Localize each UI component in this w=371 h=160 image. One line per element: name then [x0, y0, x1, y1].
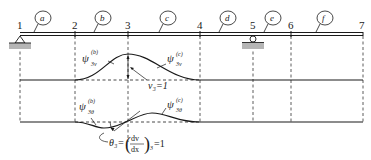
node-label-3: 3 — [125, 19, 131, 31]
svg-text:3v: 3v — [90, 61, 97, 67]
svg-text:3θ: 3θ — [175, 107, 182, 113]
node-guides — [20, 36, 363, 142]
roller-support-icon — [242, 36, 264, 49]
theta3-annotation: θ₃= ( dv dx ) 3 =1 — [109, 134, 165, 155]
svg-text:e: e — [270, 13, 274, 23]
psi-3theta-c-label: ψ (c) 3θ — [167, 97, 183, 113]
node-label-4: 4 — [197, 19, 203, 31]
psi-3v-b-label: ψ (b) 3v — [82, 49, 98, 67]
element-label-f: f — [316, 11, 333, 32]
element-label-d: d — [219, 11, 236, 32]
svg-text:dv: dv — [131, 134, 139, 143]
svg-text:3v: 3v — [175, 61, 182, 67]
svg-text:(b): (b) — [88, 98, 95, 105]
beam — [20, 32, 363, 36]
svg-text:(c): (c) — [176, 97, 183, 104]
svg-text:(c): (c) — [176, 51, 183, 58]
svg-text:ψ: ψ — [167, 52, 174, 64]
element-label-c: c — [159, 11, 176, 32]
psi-3v-c-label: ψ (c) 3v — [167, 51, 183, 67]
svg-text:ψ: ψ — [167, 98, 174, 110]
svg-text:c: c — [165, 13, 169, 23]
element-label-a: a — [34, 11, 51, 32]
svg-text:a: a — [40, 13, 45, 23]
shape-function-3v — [20, 54, 363, 80]
node-label-2: 2 — [72, 19, 78, 31]
svg-text:3θ: 3θ — [87, 109, 94, 115]
shape-function-3theta — [20, 108, 363, 142]
svg-text:θ₃=: θ₃= — [109, 137, 124, 148]
node-label-6: 6 — [288, 19, 294, 31]
node-label-5: 5 — [250, 19, 256, 31]
node-label-1: 1 — [17, 19, 23, 31]
svg-text:=1: =1 — [154, 138, 165, 149]
svg-text:b: b — [100, 13, 105, 23]
pin-support-icon — [9, 36, 31, 49]
svg-text:ψ: ψ — [79, 100, 86, 112]
svg-text:ψ: ψ — [82, 52, 89, 64]
svg-text:d: d — [225, 13, 230, 23]
v3-annotation: v₃=1 — [148, 80, 168, 91]
svg-text:(b): (b) — [91, 49, 98, 56]
svg-text:3: 3 — [149, 145, 153, 151]
beam-shape-function-diagram: 1 2 3 4 5 6 7 a b c d e f — [0, 0, 371, 160]
svg-text:dx: dx — [131, 145, 139, 154]
element-label-e: e — [264, 11, 281, 32]
element-label-b: b — [94, 11, 111, 32]
psi-3theta-b-label: ψ (b) 3θ — [79, 98, 95, 115]
node-label-7: 7 — [359, 19, 365, 31]
